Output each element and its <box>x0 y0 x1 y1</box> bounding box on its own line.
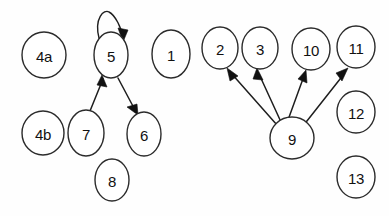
node-6-label: 6 <box>140 127 148 144</box>
node-layer: 4a 5 1 4b 7 6 <box>22 26 375 201</box>
arrowhead-9-10 <box>298 70 307 83</box>
node-9-label: 9 <box>288 131 296 148</box>
node-8[interactable]: 8 <box>95 159 129 201</box>
node-13[interactable]: 13 <box>337 156 375 198</box>
node-4a-label: 4a <box>36 48 53 65</box>
node-10-label: 10 <box>303 42 319 59</box>
node-4b[interactable]: 4b <box>22 111 64 155</box>
arrowhead-5-6 <box>127 104 138 115</box>
node-2[interactable]: 2 <box>202 27 238 69</box>
node-3[interactable]: 3 <box>242 27 278 69</box>
node-12[interactable]: 12 <box>337 91 375 133</box>
node-11[interactable]: 11 <box>337 26 375 68</box>
node-7[interactable]: 7 <box>68 110 104 156</box>
node-3-label: 3 <box>256 41 264 58</box>
node-6[interactable]: 6 <box>127 112 161 156</box>
edge-9-to-10[interactable] <box>288 70 307 120</box>
node-5-label: 5 <box>107 48 115 65</box>
node-12-label: 12 <box>348 105 364 122</box>
node-13-label: 13 <box>348 170 364 187</box>
node-10[interactable]: 10 <box>292 28 330 70</box>
diagram-canvas: 4a 5 1 4b 7 6 <box>0 0 389 216</box>
node-7-label: 7 <box>82 126 90 143</box>
graph-diagram: 4a 5 1 4b 7 6 <box>0 0 389 216</box>
node-9[interactable]: 9 <box>270 117 314 159</box>
node-4b-label: 4b <box>35 126 51 143</box>
node-8-label: 8 <box>108 173 116 190</box>
edge-5-to-6[interactable] <box>118 78 138 115</box>
arrowhead-9-11 <box>336 68 348 81</box>
node-1[interactable]: 1 <box>152 30 190 78</box>
node-1-label: 1 <box>167 47 175 64</box>
edge-7-to-5[interactable] <box>90 75 107 111</box>
arrowhead-9-3 <box>253 68 263 80</box>
node-5[interactable]: 5 <box>94 32 128 78</box>
node-2-label: 2 <box>216 41 224 58</box>
edge-path-9-10 <box>288 76 304 120</box>
node-4a[interactable]: 4a <box>22 32 66 78</box>
node-11-label: 11 <box>349 40 364 57</box>
edge-path-9-3 <box>259 74 281 122</box>
